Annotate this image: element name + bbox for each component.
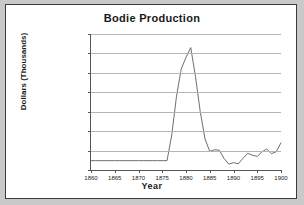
y-tick-mark-500: [88, 151, 91, 152]
y-tick-mark-1000: [88, 131, 91, 132]
y-tick-mark-3500: [88, 34, 91, 35]
chart-frame: Bodie Production Dollars (Thousands) 050…: [5, 4, 297, 199]
gridline-y-1000: [91, 131, 281, 132]
x-tick-mark-1895: [257, 170, 258, 173]
gridline-y-3500: [91, 34, 281, 35]
gridline-y-3000: [91, 53, 281, 54]
x-tick-mark-1860: [91, 170, 92, 173]
y-tick-mark-3000: [88, 53, 91, 54]
y-tick-mark-2500: [88, 73, 91, 74]
gridline-y-2000: [91, 92, 281, 93]
chart-title: Bodie Production: [6, 12, 298, 24]
series-line: [91, 48, 281, 165]
plot-area: 0500100015002000250030003500186018651870…: [90, 34, 281, 171]
x-tick-mark-1875: [162, 170, 163, 173]
gridline-y-500: [91, 151, 281, 152]
x-tick-mark-1880: [186, 170, 187, 173]
x-tick-mark-1870: [139, 170, 140, 173]
x-axis-label: Year: [6, 181, 298, 191]
y-tick-mark-2000: [88, 92, 91, 93]
y-tick-mark-1500: [88, 112, 91, 113]
gridline-y-2500: [91, 73, 281, 74]
x-tick-mark-1885: [210, 170, 211, 173]
x-tick-mark-1900: [281, 170, 282, 173]
y-axis-label: Dollars (Thousands): [19, 17, 28, 127]
x-tick-mark-1865: [115, 170, 116, 173]
gridline-y-1500: [91, 112, 281, 113]
x-tick-mark-1890: [234, 170, 235, 173]
